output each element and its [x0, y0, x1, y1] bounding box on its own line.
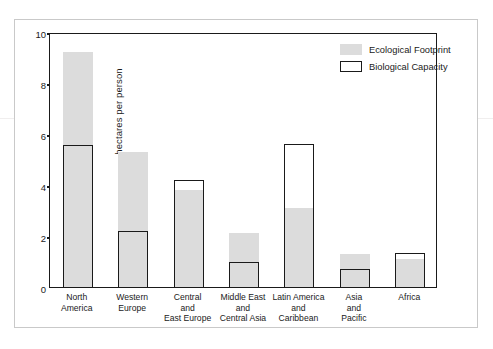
- x-axis-label: North America: [49, 292, 104, 313]
- y-tick-label: 10: [28, 30, 46, 40]
- x-axis-label: Africa: [382, 292, 437, 303]
- bar-group: [284, 32, 314, 287]
- y-tick-label: 0: [28, 285, 46, 295]
- y-tick-label: 8: [28, 81, 46, 91]
- bar-biological-capacity: [118, 231, 148, 288]
- y-tick-mark: [47, 237, 51, 238]
- bar-biological-capacity: [229, 262, 259, 289]
- x-axis-label: Asia and Pacific: [326, 292, 381, 324]
- legend-swatch-icon-capacity: [340, 61, 362, 72]
- legend-label-footprint: Ecological Footprint: [369, 45, 451, 55]
- bar-biological-capacity: [63, 145, 93, 288]
- x-axis-label: Central and East Europe: [160, 292, 215, 324]
- x-axis-label: Latin America and Caribbean: [271, 292, 326, 324]
- bar-biological-capacity: [340, 269, 370, 288]
- bar-biological-capacity: [395, 253, 425, 288]
- y-tick-label: 6: [28, 132, 46, 142]
- bar-group: [118, 32, 148, 287]
- bar-biological-capacity: [174, 180, 204, 288]
- y-tick-label: 4: [28, 183, 46, 193]
- bar-group: [174, 32, 204, 287]
- y-tick-mark: [47, 135, 51, 136]
- legend-item-biological-capacity: Biological Capacity: [340, 59, 451, 74]
- y-tick-label: 2: [28, 234, 46, 244]
- y-tick-mark: [47, 33, 51, 34]
- bar-group: [63, 32, 93, 287]
- figure-container: hectares per person 0246810 North Americ…: [0, 0, 493, 349]
- x-axis-label: Western Europe: [104, 292, 159, 313]
- bar-biological-capacity: [284, 144, 314, 288]
- bar-group: [229, 32, 259, 287]
- legend-label-capacity: Biological Capacity: [369, 62, 448, 72]
- y-tick-mark: [47, 84, 51, 85]
- legend-swatch-icon-footprint: [340, 44, 362, 55]
- x-axis-label: Middle East and Central Asia: [215, 292, 270, 324]
- legend-item-ecological-footprint: Ecological Footprint: [340, 42, 451, 57]
- y-tick-mark: [47, 186, 51, 187]
- chart-legend: Ecological Footprint Biological Capacity: [340, 42, 451, 76]
